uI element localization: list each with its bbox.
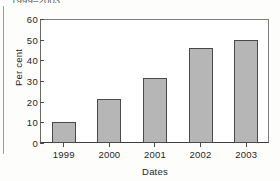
x-axis-title: Dates	[41, 166, 269, 177]
y-axis-tick-mark	[40, 143, 44, 144]
y-axis-tick-mark	[40, 102, 44, 103]
x-axis-tick-label-2001: 2001	[135, 149, 175, 160]
x-axis-tick-mark	[154, 143, 155, 147]
bar-1999	[52, 122, 76, 143]
bar-2000	[97, 99, 121, 143]
y-axis-tick-mark	[40, 60, 44, 61]
x-axis-tick-mark	[200, 143, 201, 147]
y-axis-tick-label: 20	[16, 96, 38, 107]
chart-page: 1999–2003. 0102030405060 Per cent 199920…	[0, 0, 280, 181]
x-axis-tick-label-2002: 2002	[181, 149, 221, 160]
bar-2002	[189, 48, 213, 143]
x-axis-tick-label-2003: 2003	[226, 149, 266, 160]
y-axis-title: Per cent	[13, 38, 24, 98]
y-axis-tick-mark	[40, 19, 44, 20]
x-axis-tick-label-1999: 1999	[44, 149, 84, 160]
y-axis-tick-label: 60	[16, 14, 38, 25]
y-axis-tick-mark	[40, 81, 44, 82]
x-axis-tick-label-2000: 2000	[89, 149, 129, 160]
bar-2003	[234, 40, 258, 143]
bar-series	[41, 19, 269, 143]
x-axis-tick-mark	[63, 143, 64, 147]
y-axis-tick-mark	[40, 40, 44, 41]
clipped-caption-text: 1999–2003.	[11, 0, 161, 3]
x-axis-tick-mark	[109, 143, 110, 147]
bar-2001	[143, 78, 167, 143]
y-axis-tick-mark	[40, 122, 44, 123]
y-axis-tick-label: 0	[16, 138, 38, 149]
page-edge-rule	[3, 6, 4, 154]
y-axis-tick-label: 10	[16, 117, 38, 128]
x-axis-tick-labels: 19992000200120022003	[41, 149, 269, 160]
x-axis-tick-mark	[246, 143, 247, 147]
x-axis-tick-marks	[41, 143, 269, 148]
